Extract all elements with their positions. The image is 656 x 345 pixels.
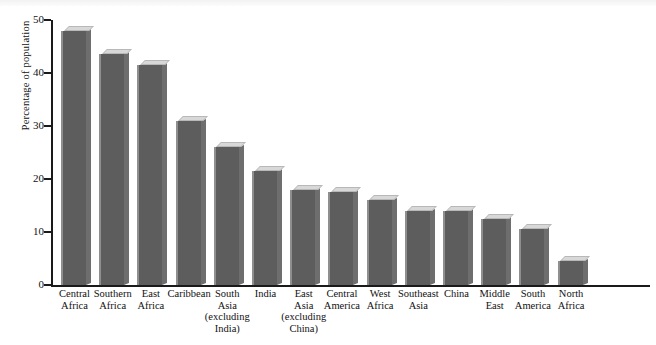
- bar: [481, 219, 506, 285]
- bar-front-face: [405, 211, 430, 285]
- bar-side-face: [353, 190, 358, 285]
- x-axis-label: NorthAfrica: [541, 288, 601, 311]
- bar-top-face: [331, 187, 361, 192]
- bar-front-face: [137, 65, 162, 285]
- bar-front-face: [328, 192, 353, 285]
- bar: [519, 229, 544, 285]
- bar: [328, 192, 353, 285]
- bar: [367, 200, 392, 285]
- bar: [61, 31, 86, 285]
- bar-front-face: [443, 211, 468, 285]
- bar: [252, 171, 277, 285]
- bar-side-face: [124, 52, 129, 285]
- y-tick-label: 0: [10, 279, 44, 290]
- y-tick-mark: [44, 284, 51, 285]
- bar-top-face: [407, 206, 437, 211]
- y-tick-label: 30: [10, 120, 44, 131]
- bar-front-face: [214, 147, 239, 285]
- bar-top-face: [102, 49, 132, 54]
- bar-top-face: [484, 214, 514, 219]
- bar: [176, 121, 201, 285]
- bar-top-face: [446, 206, 476, 211]
- bar-front-face: [290, 190, 315, 285]
- y-tick-label: 10: [10, 226, 44, 237]
- bar-chart-figure: Percentage of population 01020304050 Cen…: [0, 0, 656, 345]
- bar-top-face: [64, 26, 94, 31]
- y-tick-mark: [44, 19, 51, 20]
- y-axis-line: [51, 20, 53, 285]
- y-tick-label: 40: [10, 67, 44, 78]
- bar-side-face: [468, 209, 473, 285]
- bar: [405, 211, 430, 285]
- plot-area: 01020304050: [51, 20, 650, 285]
- x-axis-labels: CentralAfricaSouthernAfricaEastAfricaCar…: [51, 288, 650, 345]
- y-tick-mark: [44, 178, 51, 179]
- bar-side-face: [201, 119, 206, 285]
- bar-front-face: [519, 229, 544, 285]
- y-tick-label: 50: [10, 14, 44, 25]
- bar: [558, 261, 583, 285]
- bar-front-face: [61, 31, 86, 285]
- bar: [290, 190, 315, 285]
- bar-top-face: [140, 60, 170, 65]
- bar-side-face: [430, 209, 435, 285]
- bar: [443, 211, 468, 285]
- bar-front-face: [176, 121, 201, 285]
- x-axis-line: [51, 285, 650, 287]
- y-tick-label: 20: [10, 173, 44, 184]
- bar-side-face: [86, 29, 91, 285]
- bar-top-face: [293, 185, 323, 190]
- y-tick-mark: [44, 231, 51, 232]
- bar-side-face: [277, 169, 282, 285]
- bar-side-face: [239, 145, 244, 285]
- bar-front-face: [481, 219, 506, 285]
- bar-side-face: [315, 188, 320, 285]
- bar-side-face: [392, 198, 397, 285]
- bar-side-face: [544, 227, 549, 285]
- y-tick-mark: [44, 72, 51, 73]
- bar-front-face: [252, 171, 277, 285]
- bar-top-face: [255, 166, 285, 171]
- bar-top-face: [178, 116, 208, 121]
- y-tick-mark: [44, 125, 51, 126]
- bar-front-face: [367, 200, 392, 285]
- bar-front-face: [558, 261, 583, 285]
- bar: [137, 65, 162, 285]
- bar: [99, 54, 124, 285]
- bar-side-face: [506, 217, 511, 285]
- bar-side-face: [583, 259, 588, 285]
- bar-front-face: [99, 54, 124, 285]
- bar-side-face: [162, 63, 167, 285]
- bar: [214, 147, 239, 285]
